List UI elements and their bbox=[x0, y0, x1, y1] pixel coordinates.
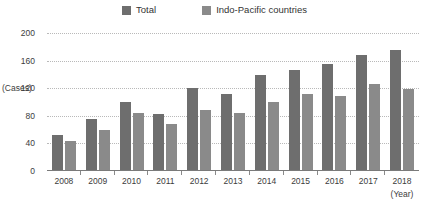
x-axis-unit-spacer bbox=[81, 189, 115, 199]
bar-total bbox=[255, 75, 266, 171]
bar-total bbox=[120, 102, 131, 171]
x-axis-tick-label: 2012 bbox=[182, 176, 216, 186]
bar-indo-pacific bbox=[268, 102, 279, 171]
x-axis-tick-label: 2010 bbox=[115, 176, 149, 186]
x-axis-tick-mark bbox=[317, 171, 318, 175]
x-axis-tick-label: 2017 bbox=[351, 176, 385, 186]
x-axis-tick-labels: 2008200920102011201220132014201520162017… bbox=[47, 176, 419, 186]
bar-group bbox=[81, 33, 115, 171]
bar-group bbox=[216, 33, 250, 171]
x-axis-tick-label: 2016 bbox=[318, 176, 352, 186]
x-axis-tick-label: 2014 bbox=[250, 176, 284, 186]
x-axis-tick-mark bbox=[181, 171, 182, 175]
bar-indo-pacific bbox=[133, 113, 144, 171]
bar-chart: Total Indo-Pacific countries (Cases) 040… bbox=[0, 0, 429, 209]
bar-total bbox=[52, 135, 63, 171]
bar-indo-pacific bbox=[99, 130, 110, 171]
x-axis-tick-mark bbox=[283, 171, 284, 175]
bar-total bbox=[221, 94, 232, 171]
x-axis-tick-mark bbox=[350, 171, 351, 175]
y-axis-tick-label: 160 bbox=[0, 57, 35, 66]
bar-indo-pacific bbox=[65, 141, 76, 171]
x-axis-tick-label: 2009 bbox=[81, 176, 115, 186]
legend-item-indo-pacific: Indo-Pacific countries bbox=[202, 5, 307, 15]
x-axis-unit-label: (Year) bbox=[385, 189, 419, 199]
y-axis-tick-label: 0 bbox=[0, 167, 35, 176]
bar-indo-pacific bbox=[166, 124, 177, 171]
legend-swatch-indo-pacific bbox=[202, 6, 211, 15]
legend-label-total: Total bbox=[136, 5, 156, 15]
bar-group bbox=[148, 33, 182, 171]
bar-group bbox=[250, 33, 284, 171]
x-axis-tick-mark bbox=[80, 171, 81, 175]
x-axis-tick-label: 2018 bbox=[385, 176, 419, 186]
x-axis-tick-label: 2013 bbox=[216, 176, 250, 186]
legend-swatch-total bbox=[122, 6, 131, 15]
bar-indo-pacific bbox=[403, 89, 414, 171]
legend-label-indo-pacific: Indo-Pacific countries bbox=[216, 5, 307, 15]
x-axis-unit-spacer bbox=[115, 189, 149, 199]
bar-total bbox=[390, 50, 401, 171]
bar-group bbox=[115, 33, 149, 171]
bar-total bbox=[289, 70, 300, 171]
bar-group bbox=[47, 33, 81, 171]
y-axis-tick-label: 40 bbox=[0, 139, 35, 148]
bar-groups bbox=[47, 33, 419, 171]
bar-total bbox=[187, 88, 198, 171]
legend-item-total: Total bbox=[122, 5, 156, 15]
bar-group bbox=[182, 33, 216, 171]
bar-total bbox=[153, 114, 164, 171]
bar-indo-pacific bbox=[369, 84, 380, 171]
x-axis-tick-mark bbox=[215, 171, 216, 175]
x-axis-unit-spacer bbox=[148, 189, 182, 199]
bar-group bbox=[385, 33, 419, 171]
x-axis-line bbox=[47, 170, 419, 171]
x-axis-unit-spacer bbox=[318, 189, 352, 199]
y-axis-tick-label: 120 bbox=[0, 84, 35, 93]
bar-indo-pacific bbox=[335, 96, 346, 171]
x-axis-tick-label: 2015 bbox=[284, 176, 318, 186]
bar-indo-pacific bbox=[302, 94, 313, 171]
y-axis-tick-label: 200 bbox=[0, 29, 35, 38]
bar-indo-pacific bbox=[234, 113, 245, 171]
plot-area: 04080120160200 bbox=[47, 33, 419, 171]
y-axis-tick-label: 80 bbox=[0, 112, 35, 121]
chart-legend: Total Indo-Pacific countries bbox=[0, 2, 429, 18]
x-axis-unit-spacer bbox=[182, 189, 216, 199]
bar-group bbox=[318, 33, 352, 171]
bar-group bbox=[284, 33, 318, 171]
bar-indo-pacific bbox=[200, 110, 211, 171]
x-axis-unit-spacer bbox=[351, 189, 385, 199]
bar-total bbox=[356, 55, 367, 171]
x-axis-tick-mark bbox=[384, 171, 385, 175]
bar-total bbox=[322, 64, 333, 171]
x-axis-tick-label: 2011 bbox=[148, 176, 182, 186]
bar-total bbox=[86, 119, 97, 171]
x-axis-tick-mark bbox=[249, 171, 250, 175]
bar-group bbox=[351, 33, 385, 171]
x-axis-unit-spacer bbox=[47, 189, 81, 199]
x-axis-unit-spacer bbox=[250, 189, 284, 199]
x-axis-tick-label: 2008 bbox=[47, 176, 81, 186]
x-axis-unit-spacer bbox=[284, 189, 318, 199]
x-axis-unit-spacer bbox=[216, 189, 250, 199]
x-axis-unit-row: (Year) bbox=[47, 189, 419, 199]
x-axis-tick-mark bbox=[147, 171, 148, 175]
x-axis-tick-mark bbox=[114, 171, 115, 175]
